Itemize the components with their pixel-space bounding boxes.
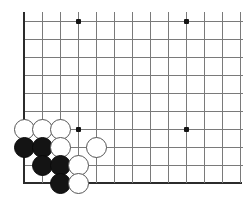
grid-line-horizontal: [24, 57, 243, 58]
grid-line-vertical: [150, 12, 151, 183]
grid-line-vertical: [132, 12, 133, 183]
star-point-upper-right: [184, 19, 189, 24]
grid-line-horizontal: [24, 39, 243, 40]
star-point-upper-left: [76, 19, 81, 24]
grid-line-horizontal: [24, 21, 243, 22]
grid-line-vertical: [114, 12, 115, 183]
go-board-diagram: Go board corner position: [0, 0, 250, 211]
grid-line-vertical: [240, 12, 241, 183]
grid-line-horizontal: [24, 93, 243, 94]
grid-line-vertical: [222, 12, 223, 183]
grid-line-vertical: [186, 12, 187, 183]
goban-grid[interactable]: [0, 0, 250, 211]
white-stone[interactable]: [86, 137, 107, 158]
star-point-lower-left: [76, 127, 81, 132]
white-stone[interactable]: [68, 173, 89, 194]
grid-line-vertical: [168, 12, 169, 183]
grid-line-horizontal: [24, 75, 243, 76]
grid-line-vertical: [204, 12, 205, 183]
board-edge-left: [23, 12, 25, 184]
star-point-lower-right: [184, 127, 189, 132]
grid-line-horizontal: [24, 111, 243, 112]
